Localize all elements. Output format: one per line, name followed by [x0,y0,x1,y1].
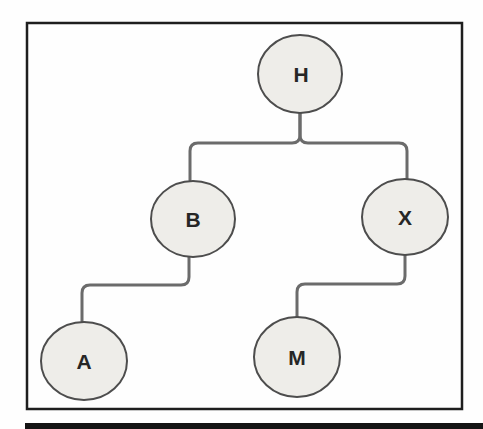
node-M-label: M [288,346,306,369]
node-B: B [151,181,235,257]
node-A-label: A [76,350,91,373]
node-X-label: X [398,206,412,229]
edge-X-M [297,254,405,317]
node-X: X [362,179,448,255]
page-rule-bar [25,423,483,429]
edge-H-B [190,112,300,180]
node-H: H [258,35,342,113]
scanned-figure-page: H B X A M [0,0,483,429]
node-M: M [254,317,340,397]
edge-B-A [82,256,189,321]
edge-group [82,112,407,321]
edge-H-X [300,112,407,179]
node-B-label: B [185,208,200,231]
node-H-label: H [293,63,308,86]
node-A: A [41,322,127,400]
tree-diagram-canvas: H B X A M [0,0,483,429]
